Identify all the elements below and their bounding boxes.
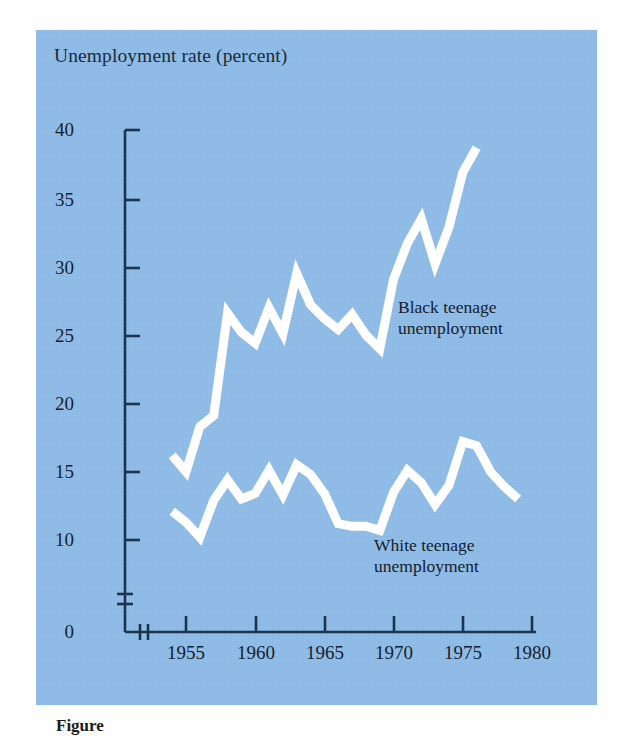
white-series-label: White teenage unemployment	[374, 535, 479, 577]
black-series-label-line1: Black teenage	[398, 297, 503, 318]
series-line-white	[172, 442, 518, 538]
white-series-label-line1: White teenage	[374, 535, 479, 556]
y-tick-label-0: 0	[30, 621, 74, 643]
x-tick-label-1960: 1960	[221, 642, 291, 664]
chart-panel: 40 35 30 25 20 15 10 0 1955 1960 1965 19…	[36, 30, 597, 705]
chart-title: Unemployment rate (percent)	[54, 45, 287, 67]
y-tick-label-10: 10	[30, 529, 74, 551]
x-tick-marks	[186, 616, 532, 632]
figure-container: 40 35 30 25 20 15 10 0 1955 1960 1965 19…	[0, 0, 622, 739]
y-tick-label-20: 20	[30, 393, 74, 415]
x-tick-label-1980: 1980	[497, 642, 567, 664]
y-tick-marks	[125, 130, 140, 540]
white-series-label-line2: unemployment	[374, 556, 479, 577]
x-tick-label-1970: 1970	[359, 642, 429, 664]
chart-plot	[36, 30, 597, 705]
black-series-label: Black teenage unemployment	[398, 297, 503, 339]
y-tick-label-15: 15	[30, 461, 74, 483]
y-tick-label-35: 35	[30, 189, 74, 211]
x-tick-label-1965: 1965	[290, 642, 360, 664]
y-tick-label-40: 40	[30, 119, 74, 141]
y-tick-label-30: 30	[30, 257, 74, 279]
black-series-label-line2: unemployment	[398, 318, 503, 339]
x-tick-label-1975: 1975	[428, 642, 498, 664]
y-tick-label-25: 25	[30, 325, 74, 347]
x-tick-label-1955: 1955	[151, 642, 221, 664]
figure-caption: Figure	[56, 716, 104, 736]
